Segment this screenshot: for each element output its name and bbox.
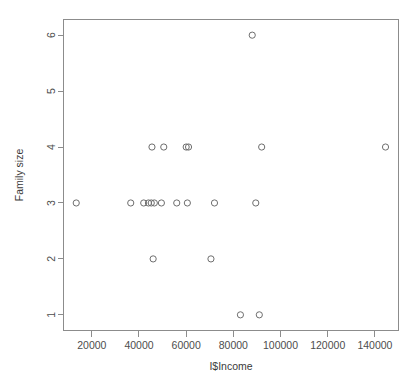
figure-background bbox=[0, 0, 416, 391]
y-tick-label: 6 bbox=[46, 32, 58, 38]
y-tick-label: 4 bbox=[46, 144, 58, 150]
y-tick-label: 2 bbox=[46, 256, 58, 262]
y-axis-title: Family size bbox=[13, 149, 25, 202]
x-tick-label: 60000 bbox=[172, 339, 201, 351]
y-tick-label: 3 bbox=[46, 200, 58, 206]
y-tick-label: 1 bbox=[46, 312, 58, 318]
x-tick-label: 140000 bbox=[357, 339, 392, 351]
scatter-plot-figure: 20000400006000080000100000120000140000 1… bbox=[0, 0, 416, 391]
y-tick-label: 5 bbox=[46, 88, 58, 94]
x-tick-label: 80000 bbox=[219, 339, 248, 351]
x-tick-label: 40000 bbox=[124, 339, 153, 351]
x-tick-label: 100000 bbox=[263, 339, 298, 351]
x-tick-label: 120000 bbox=[310, 339, 345, 351]
chart-canvas: 20000400006000080000100000120000140000 1… bbox=[0, 0, 416, 391]
x-tick-label: 20000 bbox=[77, 339, 106, 351]
x-axis-title: I$Income bbox=[209, 360, 252, 372]
